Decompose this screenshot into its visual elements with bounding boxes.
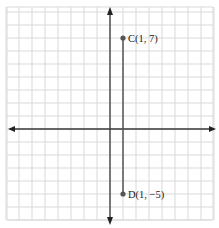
point-D — [120, 191, 125, 196]
x-axis-left-arrow-icon — [8, 126, 15, 132]
y-axis-down-arrow-icon — [107, 217, 113, 225]
coordinate-plane: C(1, 7)D(1, −5) — [0, 0, 219, 228]
y-axis-up-arrow-icon — [107, 7, 113, 15]
point-C — [120, 35, 125, 40]
point-label-D: D(1, −5) — [128, 189, 165, 201]
point-label-C: C(1, 7) — [128, 33, 158, 45]
